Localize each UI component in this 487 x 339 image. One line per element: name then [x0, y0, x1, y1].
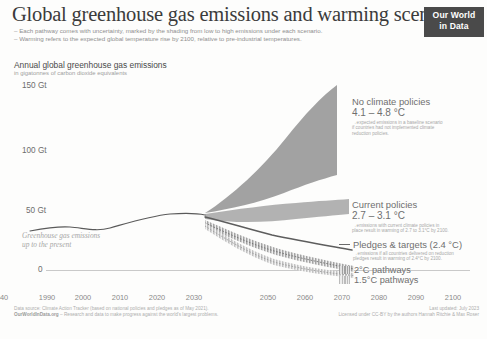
legend-swatch-2c [339, 266, 350, 274]
no-climate-policies-name: No climate policies [352, 96, 443, 107]
no-climate-policies-desc-3: reduction policies. [352, 131, 443, 136]
x-tick-2020: 2020 [149, 293, 165, 302]
legend-item-2c[interactable]: 2°C pathways [339, 265, 418, 275]
y-tick-150: 150 Gt [22, 81, 47, 90]
current-policies-temp: 2.7 – 3.1 °C [352, 210, 449, 222]
pledges-targets-name: Pledges & targets (2.4 °C) [353, 239, 462, 250]
y-tick-50: 50 Gt [26, 206, 46, 215]
line-historical-emissions [30, 213, 205, 231]
current-policies-desc-2: place result in warming of 2.7 to 3.1°C … [352, 228, 449, 233]
no-climate-policies-temp: 4.1 – 4.8 °C [352, 107, 443, 119]
legend-label-1-5c: 1.5°C pathways [354, 275, 418, 285]
footer-site-line[interactable]: OurWorldInData.org – Research and data t… [14, 312, 218, 318]
owid-chart: Global greenhouse gas emissions and warm… [0, 0, 487, 339]
legend-label-2c: 2°C pathways [354, 265, 411, 275]
footer-license: Licensed under CC-BY by the authors Hann… [338, 312, 479, 318]
y-tick-0: 0 [38, 265, 43, 274]
annotation-pledges-targets: Pledges & targets (2.4 °C) →emissions if… [339, 239, 462, 262]
x-tick-2040: 2040 [0, 293, 8, 302]
legend-item-1-5c[interactable]: 1.5°C pathways [339, 275, 418, 285]
historical-label-line-1: Greenhouse gas emissions [22, 231, 100, 240]
pledges-line-swatch [339, 244, 350, 246]
legend: 2°C pathways 1.5°C pathways [339, 265, 418, 285]
x-tick-2030: 2030 [186, 293, 202, 302]
x-tick-2080: 2080 [371, 293, 387, 302]
historical-label-line-2: up to the present [22, 240, 100, 249]
x-tick-2000: 2000 [75, 293, 91, 302]
x-tick-1990: 1990 [39, 293, 55, 302]
no-climate-policies-desc: →expected emissions in a baseline scenar… [352, 120, 443, 136]
x-tick-2010: 2010 [112, 293, 128, 302]
footer-right: Last updated: July 2023 Licensed under C… [338, 306, 479, 319]
x-tick-2100: 2100 [445, 293, 461, 302]
plot-area [0, 0, 487, 339]
footer-left: Data source: Climate Action Tracker (bas… [14, 306, 218, 319]
annotation-current-policies: Current policies 2.7 – 3.1 °C →emissions… [352, 199, 449, 234]
x-tick-2090: 2090 [408, 293, 424, 302]
pledges-targets-desc-2: pledges result in warming of 2.4°C by 21… [353, 256, 462, 261]
annotation-no-climate-policies: No climate policies 4.1 – 4.8 °C →expect… [352, 96, 443, 136]
legend-swatch-1-5c [339, 276, 350, 284]
x-tick-2050: 2050 [260, 293, 276, 302]
x-tick-2070: 2070 [334, 293, 350, 302]
x-tick-2060: 2060 [297, 293, 313, 302]
current-policies-desc: →emissions with current climate policies… [352, 223, 449, 234]
y-tick-100: 100 Gt [22, 146, 47, 155]
historical-emissions-label: Greenhouse gas emissions up to the prese… [22, 231, 100, 249]
pledges-targets-desc: →emissions if all countries delivered on… [353, 251, 462, 262]
current-policies-name: Current policies [352, 199, 449, 210]
footer-site-name: OurWorldInData.org [14, 312, 59, 317]
footer-site-tagline: – Research and data to make progress aga… [59, 312, 219, 317]
band-no-climate-policies [205, 85, 337, 213]
